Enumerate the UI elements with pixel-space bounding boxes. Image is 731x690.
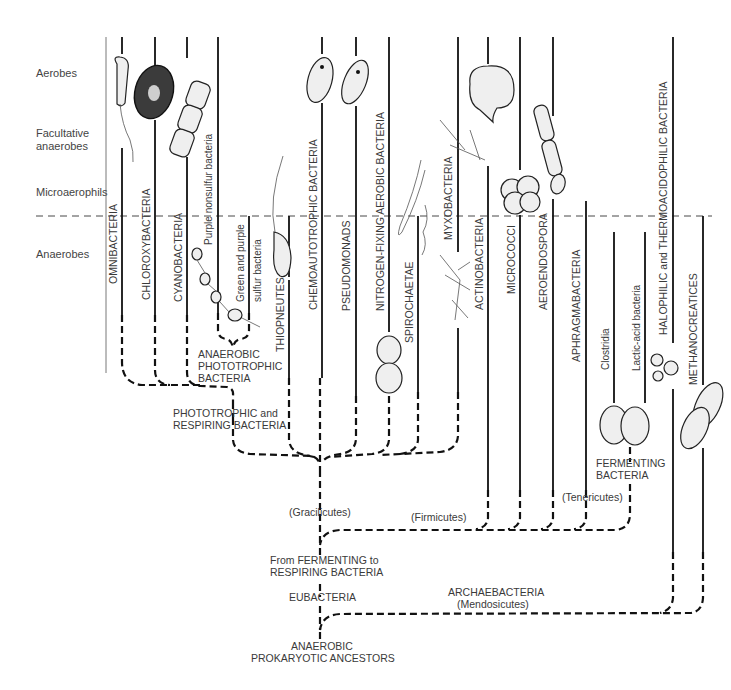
svg-text:FERMENTING: FERMENTING <box>596 457 665 469</box>
organism-halophilic-icon <box>651 354 678 381</box>
label-myxobacteria: MYXOBACTERIA <box>442 157 454 240</box>
label-methanocreatices: METHANOCREATICES <box>687 273 699 385</box>
label-actinobacteria: ACTINOBACTERIA <box>473 218 485 310</box>
node-phototrophic-respiring: PHOTOTROPHIC and RESPIRING BACTERIA <box>173 407 286 431</box>
svg-text:PROKARYOTIC ANCESTORS: PROKARYOTIC ANCESTORS <box>251 652 395 664</box>
label-spirochaetae: SPIROCHAETAE <box>403 262 415 344</box>
label-nitrogen-fixing: NITROGEN-FIXING AEROBIC BACTERIA <box>374 112 386 311</box>
label-halophilic: HALOPHILIC and THERMOACIDOPHILIC BACTERI… <box>657 81 669 335</box>
zone-label-microaerophils: Microaerophils <box>36 186 108 198</box>
label-thiopneutes: THIOPNEUTES <box>274 277 286 352</box>
node-archaebacteria: ARCHAEBACTERIA (Mendosicutes) <box>448 586 544 610</box>
label-pseudomonads: PSEUDOMONADS <box>340 221 352 311</box>
zone-label-aerobes: Aerobes <box>36 67 77 79</box>
organism-actinobacteria-icon <box>440 66 514 160</box>
node-eubacteria: EUBACTERIA <box>289 591 356 603</box>
node-fermenting-to-respiring: From FERMENTING to RESPIRING BACTERIA <box>270 554 383 578</box>
svg-text:BACTERIA: BACTERIA <box>198 372 251 384</box>
node-gracilicutes: (Gracilicutes) <box>289 506 351 518</box>
organism-micrococci-icon <box>501 176 540 214</box>
svg-text:ANAEROBIC: ANAEROBIC <box>198 348 260 360</box>
svg-text:From FERMENTING to: From FERMENTING to <box>270 554 379 566</box>
label-aeroendospora: AEROENDOSPORA <box>537 213 549 310</box>
svg-text:RESPIRING BACTERIA: RESPIRING BACTERIA <box>173 419 286 431</box>
organism-chloroxybacteria-icon <box>129 61 180 123</box>
phylogeny-diagram: Aerobes Facultative anaerobes Microaerop… <box>0 0 731 690</box>
organism-myxobacteria-icon <box>440 255 470 320</box>
label-green-purple-sulfur: Green and purple <box>235 224 246 302</box>
svg-text:ARCHAEBACTERIA: ARCHAEBACTERIA <box>448 586 544 598</box>
organism-pseudomonads-icon <box>336 57 374 108</box>
node-ancestors: ANAEROBIC PROKARYOTIC ANCESTORS <box>251 640 395 664</box>
label-omnibacteria: OMNIBACTERIA <box>107 204 119 284</box>
branch-chemoautotrophic <box>320 37 322 470</box>
svg-text:RESPIRING BACTERIA: RESPIRING BACTERIA <box>270 566 383 578</box>
label-micrococci: MICROCOCCI <box>505 225 517 294</box>
svg-text:PHOTOTROPHIC: PHOTOTROPHIC <box>198 360 283 372</box>
label-cyanobacteria: CYANOBACTERIA <box>172 213 184 302</box>
svg-text:ANAEROBIC: ANAEROBIC <box>291 640 353 652</box>
svg-text:BACTERIA: BACTERIA <box>596 469 649 481</box>
zone-label-anaerobes: Anaerobes <box>36 248 90 260</box>
organism-omnibacteria-icon <box>115 57 133 162</box>
label-purple-nonsulfur: Purple nonsulfur bacteria <box>203 133 214 245</box>
node-anaerobic-phototrophic: ANAEROBIC PHOTOTROPHIC BACTERIA <box>198 348 283 384</box>
node-tenericutes: (Tenericutes) <box>562 491 623 503</box>
organism-methanocreatices-icon <box>675 378 729 453</box>
organism-chemoautotrophic-icon <box>302 55 337 106</box>
label-chemoautotrophic: CHEMOAUTOTROPHIC BACTERIA <box>307 139 319 310</box>
node-fermenting: FERMENTING BACTERIA <box>596 457 665 481</box>
node-firmicutes: (Firmicutes) <box>411 511 466 523</box>
svg-text:PHOTOTROPHIC and: PHOTOTROPHIC and <box>173 407 278 419</box>
zone-label-facultative: Facultative <box>36 127 89 139</box>
zone-label-facultative-2: anaerobes <box>36 140 88 152</box>
organism-nitrogen-fixing-icon <box>376 336 402 393</box>
label-aphragmabacteria: APHRAGMABACTERIA <box>570 249 582 362</box>
organism-spirochaetae-icon <box>398 160 427 255</box>
branch-purple-nonsulfur <box>218 37 233 348</box>
label-lactic-acid: Lactic-acid bacteria <box>631 284 642 371</box>
organism-clostridia-icon <box>600 406 649 445</box>
label-green-purple-sulfur-2: sulfur bacteria <box>252 239 263 302</box>
svg-text:(Mendosicutes): (Mendosicutes) <box>457 598 529 610</box>
label-clostridia: Clostridia <box>600 328 611 370</box>
label-chloroxybacteria: CHLOROXYBACTERIA <box>140 189 152 300</box>
